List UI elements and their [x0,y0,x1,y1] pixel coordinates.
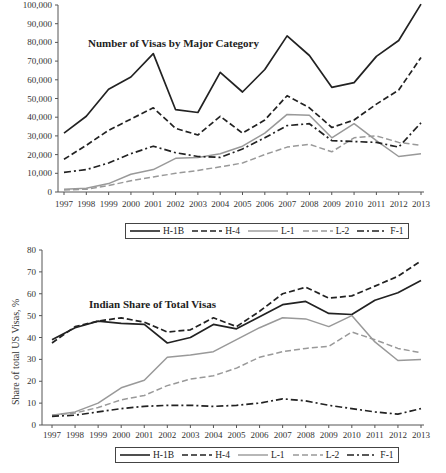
x-tick-label: 1997 [55,199,74,209]
legend-top: H-1B H-4 L-1 L-2 F-1 [125,223,409,239]
legend-item-h1b: H-1B [130,226,184,236]
y-tick-label: 30 [27,354,37,364]
legend-item-l2: L-2 [303,226,350,236]
y-tick-label: 0 [32,420,37,430]
legend-item-f1: F-1 [347,450,393,460]
y-tick-label: 60 [27,289,37,299]
x-tick-label: 1998 [66,430,85,440]
x-tick-label: 1999 [89,430,108,440]
x-tick-label: 2004 [211,199,230,209]
x-tick-label: 2001 [135,430,153,440]
legend-item-l1: L-1 [248,226,295,236]
x-tick-label: 2003 [189,199,208,209]
x-tick-label: 2005 [234,199,253,209]
y-tick-label: 40 [27,333,37,343]
x-tick-label: 2011 [366,430,384,440]
x-tick-label: 1997 [43,430,62,440]
y-tick-label: 50,000 [27,94,52,104]
legend-item-h4: H-4 [192,226,240,236]
y-tick-label: 50 [27,311,37,321]
y-tick-label: 20,000 [27,150,52,160]
legend-bottom: H-1B H-4 L-1 L-2 F-1 [115,447,399,463]
x-tick-label: 2011 [368,199,386,209]
y-tick-label: 60,000 [27,75,52,85]
series-line-l-1 [52,316,421,416]
y-tick-label: 90,000 [27,19,52,29]
x-tick-label: 2009 [320,430,339,440]
visas-by-category-chart: 010,00020,00030,00040,00050,00060,00070,… [0,0,446,240]
legend-item-l1: L-1 [238,450,285,460]
x-tick-label: 1998 [77,199,96,209]
x-tick-label: 2010 [345,199,364,209]
x-tick-label: 2004 [204,430,223,440]
x-tick-label: 2012 [390,199,408,209]
x-tick-label: 2007 [278,199,297,209]
chart-title-visas-by-category: Number of Visas by Major Category [88,37,259,49]
x-tick-label: 2010 [343,430,362,440]
x-tick-label: 2005 [228,430,247,440]
x-tick-label: 2007 [274,430,293,440]
x-tick-label: 2008 [300,199,319,209]
y-tick-label: 0 [48,187,53,197]
series-line-l-2 [64,136,421,190]
y-tick-label: 30,000 [27,131,52,141]
series-line-f-1 [64,123,421,173]
y-tick-label: 70,000 [27,56,52,66]
x-tick-label: 2008 [297,430,316,440]
y-tick-label: 10 [27,398,37,408]
x-tick-label: 2013 [412,199,431,209]
legend-item-h4: H-4 [182,450,230,460]
series-line-l-2 [52,332,421,415]
figure: 010,00020,00030,00040,00050,00060,00070,… [0,0,446,473]
y-tick-label: 80,000 [27,37,52,47]
x-tick-label: 2000 [112,430,131,440]
y-tick-label: 10,000 [27,168,52,178]
legend-item-h1b: H-1B [120,450,174,460]
y-axis-label: Share of total US Visas, % [10,299,21,405]
x-tick-label: 2012 [389,430,407,440]
x-tick-label: 1999 [100,199,119,209]
x-tick-label: 2000 [122,199,141,209]
y-tick-label: 70 [27,267,37,277]
x-tick-label: 2006 [256,199,275,209]
series-line-h-1b [64,4,421,133]
x-tick-label: 2009 [323,199,342,209]
y-tick-label: 100,000 [23,0,53,10]
indian-share-chart: 0102030405060708019971998199920002001200… [0,240,446,473]
x-tick-label: 2001 [144,199,162,209]
chart-title-indian-share: Indian Share of Total Visas [89,298,216,310]
x-tick-label: 2013 [412,430,431,440]
series-line-h-4 [64,57,421,159]
y-tick-label: 20 [27,376,37,386]
y-tick-label: 40,000 [27,112,52,122]
legend-item-l2: L-2 [293,450,340,460]
series-line-f-1 [52,399,421,417]
y-tick-label: 80 [27,245,37,255]
x-tick-label: 2006 [251,430,270,440]
x-tick-label: 2003 [181,430,200,440]
legend-item-f1: F-1 [357,226,403,236]
x-tick-label: 2002 [167,199,185,209]
x-tick-label: 2002 [158,430,176,440]
